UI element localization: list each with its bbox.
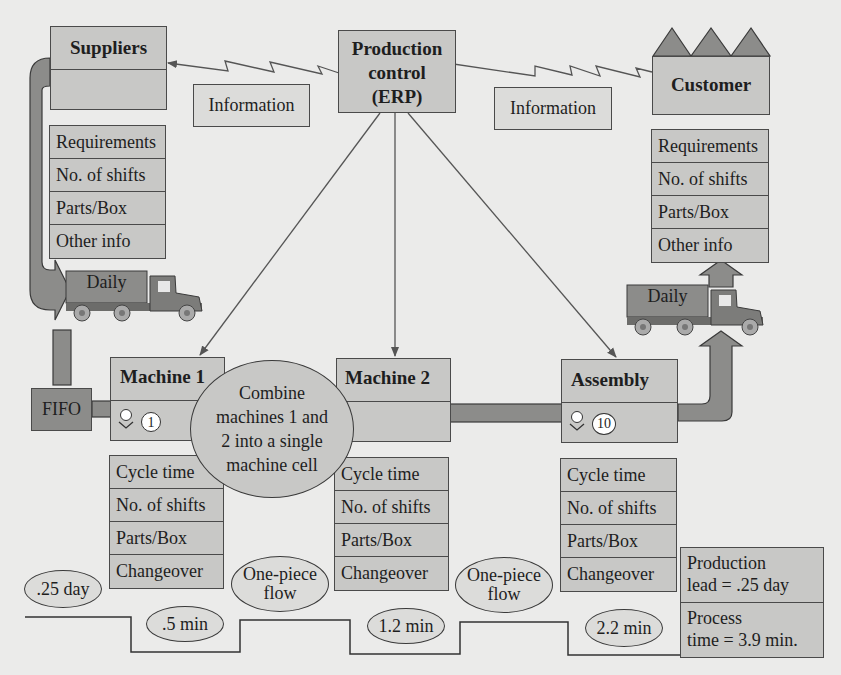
erp-to-machine1 bbox=[200, 113, 380, 355]
flow-text: flow bbox=[488, 585, 521, 604]
process-time-oval: .5 min bbox=[146, 606, 224, 642]
one-piece-flow-1: One-piece flow bbox=[231, 556, 329, 612]
customer-info-row: No. of shifts bbox=[652, 163, 768, 196]
lead-time-value: lead = .25 day bbox=[687, 574, 823, 596]
process-name: Machine 1 bbox=[120, 366, 205, 388]
pc-line1: Production bbox=[339, 37, 455, 61]
data-row: Cycle time bbox=[561, 459, 676, 492]
information-label-right: Information bbox=[494, 87, 612, 130]
truck-label-outbound: Daily bbox=[627, 286, 708, 307]
data-row: Changeover bbox=[335, 557, 448, 590]
factory-icon bbox=[653, 28, 770, 56]
operator-icon bbox=[118, 409, 136, 429]
data-row: No. of shifts bbox=[110, 489, 223, 522]
process-name: Assembly bbox=[571, 369, 649, 391]
data-box-assembly: Cycle time No. of shifts Parts/Box Chang… bbox=[560, 458, 677, 592]
flow-text: One-piece bbox=[467, 566, 541, 585]
kaizen-line: 2 into a single bbox=[221, 429, 323, 453]
process-time-oval: 2.2 min bbox=[585, 609, 663, 647]
pc-line3: (ERP) bbox=[339, 85, 455, 109]
production-control-box: Production control (ERP) bbox=[338, 30, 456, 113]
kaizen-line: Combine bbox=[239, 381, 305, 405]
truck-label-inbound: Daily bbox=[66, 272, 147, 293]
data-row: Changeover bbox=[110, 555, 223, 588]
suppliers-title: Suppliers bbox=[51, 27, 166, 70]
customer-info-row: Other info bbox=[652, 229, 768, 262]
summary-box: Production lead = .25 day Process time =… bbox=[680, 547, 824, 658]
data-row: Cycle time bbox=[335, 458, 448, 491]
kaizen-line: machines 1 and bbox=[216, 405, 328, 429]
one-piece-flow-2: One-piece flow bbox=[455, 557, 553, 613]
process-time-label: Process bbox=[687, 607, 823, 629]
suppliers-info-row: Requirements bbox=[50, 126, 165, 159]
data-row: No. of shifts bbox=[335, 491, 448, 524]
delivery-arrow bbox=[700, 260, 742, 287]
operator-count: 1 bbox=[141, 412, 161, 432]
erp-to-suppliers-arrow bbox=[168, 61, 345, 75]
fifo-box: FIFO bbox=[31, 388, 92, 431]
data-row: Changeover bbox=[561, 558, 676, 591]
suppliers-info-row: No. of shifts bbox=[50, 159, 165, 192]
suppliers-info-row: Other info bbox=[50, 225, 165, 258]
shipment-arrow bbox=[678, 331, 742, 421]
data-row: Parts/Box bbox=[561, 525, 676, 558]
process-name: Machine 2 bbox=[345, 367, 430, 389]
pc-line2: control bbox=[339, 61, 455, 85]
lead-time-label: Production bbox=[687, 552, 823, 574]
data-row: Parts/Box bbox=[335, 524, 448, 557]
operator-count: 10 bbox=[592, 413, 616, 435]
customer-to-erp-arrow bbox=[440, 62, 652, 77]
timeline bbox=[25, 617, 680, 655]
process-time-value: time = 3.9 min. bbox=[687, 629, 823, 651]
customer-info-table: Requirements No. of shifts Parts/Box Oth… bbox=[651, 129, 769, 263]
data-box-machine-1: Cycle time No. of shifts Parts/Box Chang… bbox=[109, 455, 224, 589]
suppliers-info-row: Parts/Box bbox=[50, 192, 165, 225]
suppliers-box: Suppliers bbox=[50, 26, 167, 110]
kaizen-ellipse: Combine machines 1 and 2 into a single m… bbox=[190, 360, 354, 498]
kaizen-line: machine cell bbox=[226, 453, 317, 477]
erp-to-assembly bbox=[408, 113, 616, 357]
process-time-oval: 1.2 min bbox=[367, 608, 445, 644]
fifo-connector bbox=[53, 330, 71, 385]
wait-time-oval: .25 day bbox=[24, 570, 102, 608]
customer-box: Customer bbox=[652, 56, 770, 115]
data-row: No. of shifts bbox=[561, 492, 676, 525]
information-label-left: Information bbox=[193, 84, 310, 127]
customer-info-row: Parts/Box bbox=[652, 196, 768, 229]
data-box-machine-2: Cycle time No. of shifts Parts/Box Chang… bbox=[334, 457, 449, 591]
customer-info-row: Requirements bbox=[652, 130, 768, 163]
flow-text: flow bbox=[264, 584, 297, 603]
flow-text: One-piece bbox=[243, 565, 317, 584]
suppliers-info-table: Requirements No. of shifts Parts/Box Oth… bbox=[49, 125, 166, 259]
data-row: Parts/Box bbox=[110, 522, 223, 555]
operator-icon bbox=[569, 411, 587, 431]
